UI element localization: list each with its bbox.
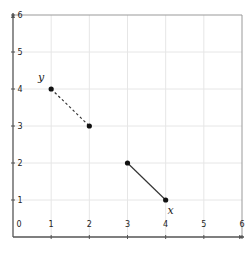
x-tick-label: 6: [239, 220, 244, 229]
data-point: [49, 86, 54, 91]
x-tick-label: 0: [16, 220, 21, 229]
series-labels: yx: [37, 71, 175, 217]
y-tick-label: 3: [17, 122, 22, 131]
y-tick-label: 6: [17, 11, 22, 20]
data-point: [125, 160, 130, 165]
x-tick-label: 1: [49, 220, 54, 229]
x-tick-label: 5: [201, 220, 206, 229]
y-tick-label: 1: [17, 196, 22, 205]
y-tick-label: 4: [17, 85, 22, 94]
series-line-x: [128, 163, 166, 200]
grid-lines: [13, 15, 242, 237]
data-point: [163, 197, 168, 202]
series-label-x: x: [168, 204, 175, 217]
series-line-y: [51, 89, 89, 126]
x-tick-label: 4: [163, 220, 168, 229]
y-tick-label: 5: [17, 48, 22, 57]
x-tick-label: 3: [125, 220, 130, 229]
data-point: [87, 123, 92, 128]
series-label-y: y: [37, 71, 45, 84]
chart: 0123456123456 yx: [0, 0, 252, 253]
y-tick-label: 2: [17, 159, 22, 168]
data-series: [49, 86, 169, 202]
x-tick-label: 2: [87, 220, 92, 229]
